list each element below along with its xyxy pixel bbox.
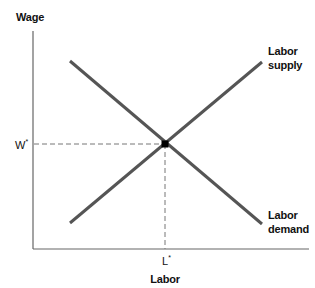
labor-demand-label: Labor demand [268,209,309,235]
labor-market-chart: Wage Labor W* L* Labor supply Labor dema… [0,0,315,288]
x-axis-title: Labor [150,273,180,285]
labor-supply-label: Labor supply [268,45,303,71]
y-axis-title: Wage [16,11,44,23]
l-star-label: L* [162,254,171,267]
equilibrium-point [162,141,169,148]
w-star-label: W* [15,138,28,151]
